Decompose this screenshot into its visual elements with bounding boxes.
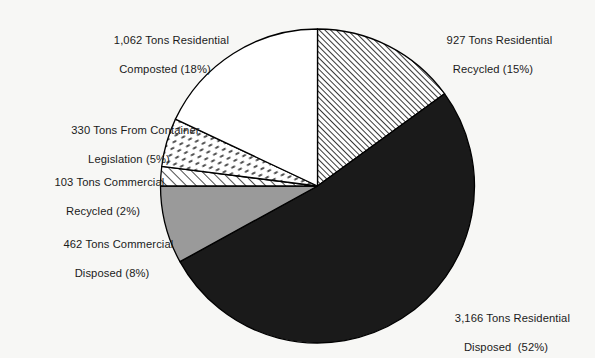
slice-label-line2: Composted (18%) (56, 62, 274, 77)
slice-label-line2: Recycled (2%) (6, 204, 200, 219)
pie-chart: 1,062 Tons Residential Composted (18%) 3… (0, 0, 595, 358)
slice-label-commercial-disposed: 462 Tons Commercial Disposed (8%) (14, 222, 210, 309)
slice-label-line1: 1,062 Tons Residential (114, 34, 229, 46)
slice-label-line2: Disposed (8%) (14, 266, 210, 281)
slice-label-residential-disposed: 3,166 Tons Residential Disposed (52%) (418, 296, 594, 358)
slice-label-line1: 462 Tons Commercial (63, 238, 173, 250)
slice-label-line1: 927 Tons Residential (447, 34, 553, 46)
slice-label-line1: 103 Tons Commercial (54, 176, 164, 188)
slice-label-line2: Disposed (52%) (418, 340, 594, 355)
slice-label-line2: Recycled (15%) (400, 62, 586, 77)
slice-label-residential-composted: 1,062 Tons Residential Composted (18%) (56, 18, 274, 105)
slice-label-line1: 330 Tons From Container (71, 124, 199, 136)
slice-label-line1: 3,166 Tons Residential (455, 312, 570, 324)
slice-label-residential-recycled: 927 Tons Residential Recycled (15%) (400, 18, 586, 105)
